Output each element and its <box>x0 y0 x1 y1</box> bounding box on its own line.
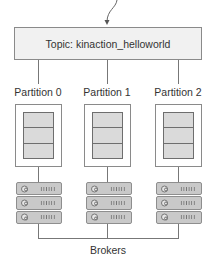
server-rack-icon <box>156 196 202 209</box>
disk-icon <box>91 199 98 206</box>
connector-broker-bus-2 <box>178 224 179 238</box>
partition-1-box <box>84 104 131 167</box>
disk-icon <box>91 185 98 192</box>
partition-log-segments <box>163 112 194 159</box>
server-rack-icon <box>86 182 132 195</box>
incoming-arrow-icon <box>95 0 125 28</box>
broker-stack-0 <box>16 182 62 224</box>
vent-icon <box>180 201 196 205</box>
connector-topic-partition-1 <box>107 60 108 84</box>
log-segment <box>93 113 122 127</box>
server-rack-icon <box>156 211 202 224</box>
log-segment <box>93 127 122 142</box>
partition-2-box <box>155 104 202 167</box>
log-segment <box>164 143 193 158</box>
vent-icon <box>110 201 126 205</box>
server-rack-icon <box>16 196 62 209</box>
log-segment <box>24 143 53 158</box>
vent-icon <box>110 187 126 191</box>
log-segment <box>24 113 53 127</box>
broker-stack-2 <box>156 182 202 224</box>
vent-icon <box>110 215 126 219</box>
server-rack-icon <box>156 182 202 195</box>
topic-label: Topic: kinaction_helloworld <box>46 38 171 50</box>
disk-icon <box>21 199 28 206</box>
broker-stack-1 <box>86 182 132 224</box>
connector-broker-bus-0 <box>38 224 39 238</box>
vent-icon <box>180 187 196 191</box>
vent-icon <box>40 201 56 205</box>
vent-icon <box>40 187 56 191</box>
disk-icon <box>161 199 168 206</box>
topic-box: Topic: kinaction_helloworld <box>14 27 202 60</box>
partition-1-label: Partition 1 <box>72 86 142 98</box>
disk-icon <box>161 214 168 221</box>
log-segment <box>164 127 193 142</box>
vent-icon <box>40 215 56 219</box>
connector-topic-partition-0 <box>38 60 39 84</box>
vent-icon <box>180 215 196 219</box>
log-segment <box>164 113 193 127</box>
connector-partition-broker-2 <box>178 167 179 182</box>
connector-topic-partition-2 <box>178 60 179 84</box>
server-rack-icon <box>16 211 62 224</box>
broker-bus-line <box>38 238 179 239</box>
server-rack-icon <box>86 211 132 224</box>
disk-icon <box>21 185 28 192</box>
disk-icon <box>161 185 168 192</box>
partition-0-label: Partition 0 <box>3 86 73 98</box>
connector-partition-broker-1 <box>107 167 108 182</box>
connector-broker-bus-1 <box>107 224 108 238</box>
partition-2-label: Partition 2 <box>143 86 213 98</box>
disk-icon <box>21 214 28 221</box>
server-rack-icon <box>86 196 132 209</box>
partition-log-segments <box>23 112 54 159</box>
partition-log-segments <box>92 112 123 159</box>
log-segment <box>93 143 122 158</box>
connector-partition-broker-0 <box>38 167 39 182</box>
brokers-label: Brokers <box>73 244 143 256</box>
log-segment <box>24 127 53 142</box>
disk-icon <box>91 214 98 221</box>
server-rack-icon <box>16 182 62 195</box>
partition-0-box <box>15 104 62 167</box>
